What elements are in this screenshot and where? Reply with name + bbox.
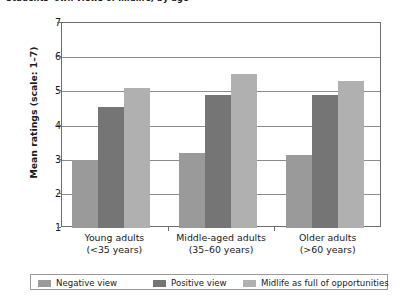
legend-label-0: Negative view xyxy=(56,278,117,288)
chart-legend: Negative viewPositive viewMidlife as ful… xyxy=(30,274,388,290)
bar-1-2 xyxy=(231,74,257,228)
legend-swatch-icon-2 xyxy=(243,280,256,287)
chart-figure: Students' own views of midlife, by age M… xyxy=(0,0,401,298)
chart-title: Students' own views of midlife, by age xyxy=(6,0,396,3)
legend-item-0[interactable]: Negative view xyxy=(38,278,117,288)
legend-item-1[interactable]: Positive view xyxy=(153,278,227,288)
bar-2-2 xyxy=(338,81,364,228)
legend-swatch-icon-0 xyxy=(38,280,51,287)
x-group-label-2: Older adults(>60 years) xyxy=(258,232,398,255)
gridline-5 xyxy=(62,91,380,92)
legend-swatch-icon-1 xyxy=(153,280,166,287)
bar-2-0 xyxy=(286,155,312,228)
bar-1-1 xyxy=(205,95,231,228)
bar-0-2 xyxy=(124,88,150,228)
legend-label-2: Midlife as full of opportunities xyxy=(261,278,389,288)
bar-1-0 xyxy=(179,153,205,228)
x-group-label-line2: (>60 years) xyxy=(258,244,398,256)
y-tick-mark-1 xyxy=(57,227,61,228)
bar-0-0 xyxy=(72,160,98,228)
legend-item-2[interactable]: Midlife as full of opportunities xyxy=(243,278,389,288)
bar-0-1 xyxy=(98,107,124,228)
gridline-6 xyxy=(62,57,380,58)
x-tick-mark-2 xyxy=(274,227,275,231)
legend-label-1: Positive view xyxy=(171,278,227,288)
x-tick-mark-1 xyxy=(168,227,169,231)
y-axis-title: Mean ratings (scale: 1–7) xyxy=(28,33,39,193)
x-group-label-line1: Older adults xyxy=(258,232,398,244)
plot-area xyxy=(61,22,381,227)
bar-2-1 xyxy=(312,95,338,228)
